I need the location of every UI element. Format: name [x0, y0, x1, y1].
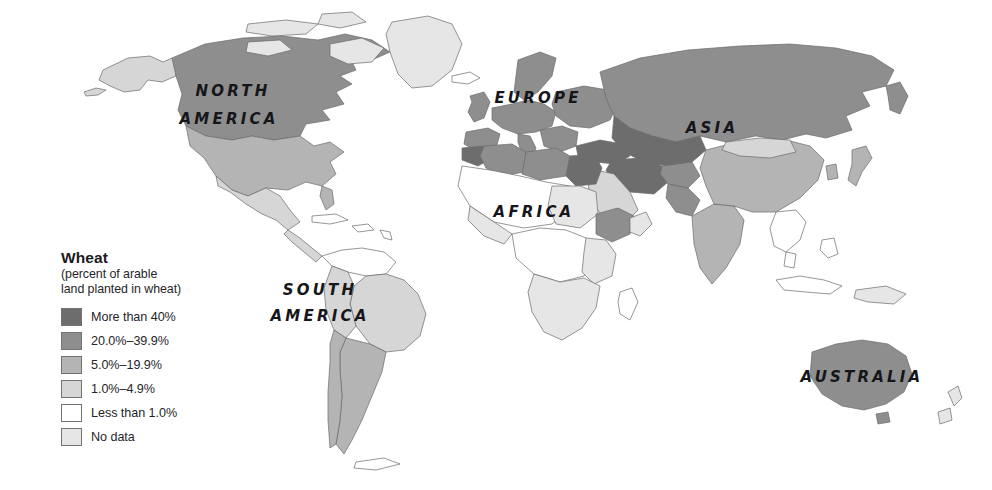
region-florida: [320, 186, 334, 210]
region-new-zealand-south: [938, 408, 952, 424]
region-japan: [848, 146, 872, 186]
legend-label-gt40: More than 40%: [91, 310, 176, 324]
legend-row-b1-4: 1.0%–4.9%: [61, 377, 251, 401]
legend-swatch-nodata: [61, 428, 82, 446]
legend-row-nodata: No data: [61, 425, 251, 449]
region-madagascar: [618, 288, 638, 320]
legend-swatch-lt1: [61, 404, 82, 422]
region-east-africa: [582, 238, 616, 284]
region-greenland: [386, 16, 462, 88]
region-argentina: [336, 338, 386, 454]
legend-label-b1-4: 1.0%–4.9%: [91, 382, 155, 396]
region-indonesia: [776, 276, 842, 294]
region-ethiopia: [596, 208, 634, 242]
legend-row-lt1: Less than 1.0%: [61, 401, 251, 425]
legend-subtitle-line2: land planted in wheat): [61, 282, 251, 297]
legend-title: Wheat: [61, 249, 251, 266]
region-iceland: [452, 72, 480, 84]
region-alaska: [99, 56, 181, 92]
legend-row-b5-19: 5.0%–19.9%: [61, 353, 251, 377]
region-southern-africa: [528, 274, 600, 340]
legend-swatch-b20-39: [61, 332, 82, 350]
continent-label-south-america: AMERICA: [270, 307, 370, 325]
region-balkans: [540, 126, 578, 152]
continent-label-africa: AFRICA: [493, 203, 575, 221]
region-egypt: [566, 154, 602, 186]
legend-label-b20-39: 20.0%–39.9%: [91, 334, 169, 348]
region-philippines: [820, 238, 838, 258]
region-southeast-asia: [770, 210, 806, 252]
region-korea: [826, 164, 838, 180]
legend-subtitle-line1: (percent of arable: [61, 267, 251, 282]
region-indochina-peninsula: [784, 252, 796, 268]
legend-label-lt1: Less than 1.0%: [91, 406, 177, 420]
region-tunisia-libya: [522, 148, 570, 180]
legend-swatch-gt40: [61, 308, 82, 326]
continent-label-south: SOUTH: [283, 281, 358, 299]
legend-label-nodata: No data: [91, 430, 135, 444]
region-new-guinea: [854, 286, 906, 304]
region-india: [692, 204, 744, 284]
region-canadian-arctic-islands: [246, 20, 318, 36]
map-legend: Wheat (percent of arable land planted in…: [61, 249, 251, 449]
region-central-africa: [512, 228, 594, 282]
continent-label-asia: ASIA: [685, 119, 738, 137]
region-central-america: [284, 230, 322, 262]
legend-label-b5-19: 5.0%–19.9%: [91, 358, 162, 372]
continent-label-north-america: AMERICA: [179, 110, 279, 128]
wheat-choropleth-figure: NORTH AMERICA EUROPE ASIA AFRICA SOUTH A…: [0, 0, 992, 490]
region-uk-ireland: [468, 92, 490, 122]
legend-subtitle: (percent of arable land planted in wheat…: [61, 267, 251, 297]
region-hispaniola: [352, 224, 374, 232]
legend-row-b20-39: 20.0%–39.9%: [61, 329, 251, 353]
region-pakistan: [666, 184, 700, 216]
region-kamchatka: [886, 82, 908, 114]
region-ellesmere-island: [318, 12, 366, 28]
region-new-zealand: [948, 386, 962, 406]
region-cuba: [312, 214, 348, 224]
continent-label-australia: AUSTRALIA: [800, 368, 924, 386]
continent-label-europe: EUROPE: [494, 89, 581, 107]
region-tasmania: [876, 412, 890, 424]
legend-swatch-b5-19: [61, 356, 82, 374]
region-aleutians: [84, 88, 106, 96]
legend-items: More than 40% 20.0%–39.9% 5.0%–19.9% 1.0…: [61, 305, 251, 449]
legend-swatch-b1-4: [61, 380, 82, 398]
continent-label-north: NORTH: [196, 82, 271, 100]
region-lesser-antilles: [380, 230, 392, 240]
legend-row-gt40: More than 40%: [61, 305, 251, 329]
region-russia: [600, 44, 894, 142]
region-antarctic-fragment: [354, 458, 400, 470]
